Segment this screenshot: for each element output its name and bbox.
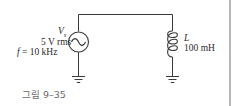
ground-icon bbox=[72, 77, 85, 83]
ac-voltage-source-icon bbox=[69, 32, 89, 52]
source-frequency-label: f = 10 kHz bbox=[17, 47, 57, 57]
frequency-value: = 10 kHz bbox=[22, 47, 57, 57]
page-edge-divider bbox=[229, 0, 231, 106]
frequency-symbol: f bbox=[17, 47, 20, 57]
ground-icon bbox=[166, 77, 179, 83]
inductor-symbol-label: L bbox=[184, 33, 189, 43]
source-voltage-label: 5 V rms bbox=[41, 37, 71, 47]
circuit-figure: Vs 5 V rms f = 10 kHz L 100 mH 그림 9–35 bbox=[0, 0, 234, 106]
figure-caption: 그림 9–35 bbox=[22, 87, 66, 101]
inductor-coil-icon bbox=[168, 31, 178, 57]
inductor-value-label: 100 mH bbox=[184, 43, 215, 53]
